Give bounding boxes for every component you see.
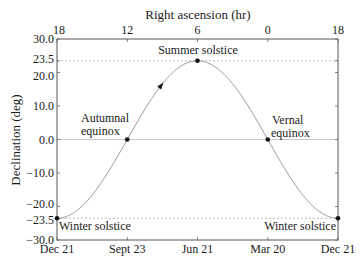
direction-arrow-icon xyxy=(157,82,163,89)
data-point xyxy=(336,216,341,221)
y-tick-label: 0.0 xyxy=(39,133,54,147)
x-tick-labels-top: 18126018 xyxy=(53,23,344,37)
data-point xyxy=(265,137,270,142)
x-tick-label-top: 6 xyxy=(195,23,201,37)
declination-chart: 30.023.520.010.00.0−10.0−20.0−23.5−30.0 … xyxy=(0,0,362,264)
x-tick-label-bottom: Mar 20 xyxy=(250,242,285,256)
y-tick-label: −20.0 xyxy=(26,197,54,211)
data-point xyxy=(195,58,200,63)
y-axis-title: Declination (deg) xyxy=(8,94,23,185)
y-tick-label: 30.0 xyxy=(33,32,54,46)
x-tick-label-bottom: Sept 23 xyxy=(109,242,145,256)
autumnal-equinox-label-2: equinox xyxy=(81,124,120,138)
x-tick-label-top: 18 xyxy=(53,23,65,37)
x-tick-label-top: 0 xyxy=(265,23,271,37)
y-tick-labels: 30.023.520.010.00.0−10.0−20.0−23.5−30.0 xyxy=(26,32,54,247)
x-tick-label-bottom: Jun 21 xyxy=(182,242,214,256)
y-tick-label: −23.5 xyxy=(26,213,54,227)
top-axis-title: Right ascension (hr) xyxy=(145,7,250,22)
autumnal-equinox-label-1: Autumnal xyxy=(81,111,130,125)
y-tick-label: 20.0 xyxy=(33,69,54,83)
data-point xyxy=(125,137,130,142)
x-tick-labels-bottom: Dec 21Sept 23Jun 21Mar 20Dec 21 xyxy=(40,242,355,256)
x-tick-label-bottom: Dec 21 xyxy=(40,242,74,256)
y-tick-label: −10.0 xyxy=(26,166,54,180)
winter-solstice-label-left: Winter solstice xyxy=(59,219,131,233)
x-tick-label-top: 18 xyxy=(332,23,344,37)
y-tick-label: 10.0 xyxy=(33,99,54,113)
vernal-equinox-label-2: equinox xyxy=(271,126,310,140)
x-tick-label-bottom: Dec 21 xyxy=(321,242,355,256)
x-tick-label-top: 12 xyxy=(121,23,133,37)
winter-solstice-label-right: Winter solstice xyxy=(264,219,336,233)
summer-solstice-label: Summer solstice xyxy=(158,43,238,57)
vernal-equinox-label-1: Vernal xyxy=(272,113,304,127)
y-tick-label: 23.5 xyxy=(33,52,54,66)
